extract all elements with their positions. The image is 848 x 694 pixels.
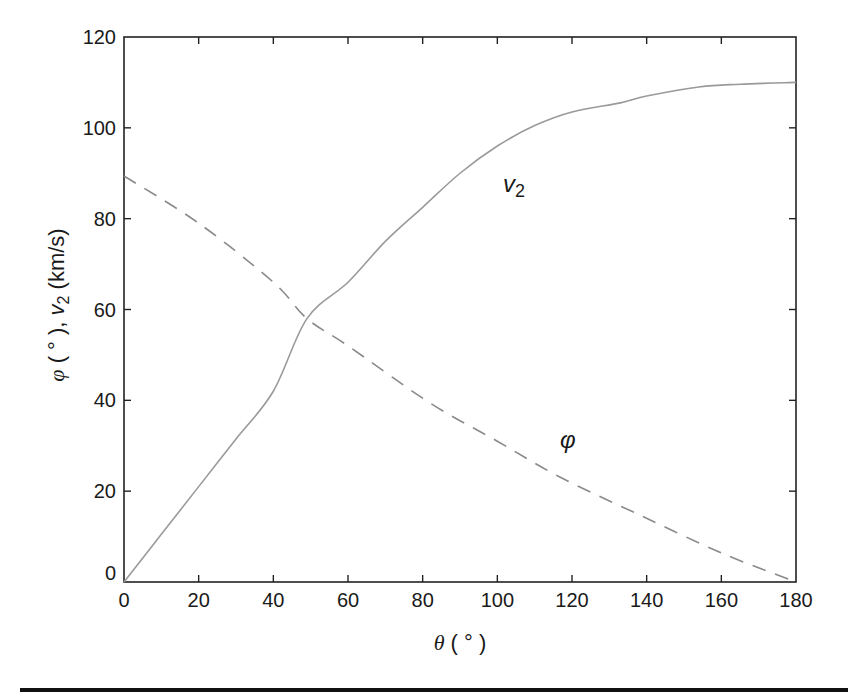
y-tick-label: 120 — [83, 26, 116, 48]
annotation-v2: v2 — [503, 170, 525, 201]
series-phi-line — [124, 176, 796, 582]
bottom-rule-divider — [20, 688, 848, 692]
y-axis-title: φ ( ° ), v2 (km/s) — [44, 228, 72, 381]
series-group — [124, 82, 796, 582]
series-v2-line — [124, 82, 796, 582]
x-tick-label: 80 — [412, 589, 434, 611]
x-tick-label: 20 — [188, 589, 210, 611]
x-tick-label: 160 — [705, 589, 738, 611]
y-tick-label: 100 — [83, 117, 116, 139]
plot-area — [124, 37, 796, 582]
y-tick-label: 60 — [94, 299, 116, 321]
y-tick-label: 0 — [105, 562, 116, 584]
plot-frame — [124, 37, 796, 582]
x-tick-label: 180 — [779, 589, 812, 611]
y-axis-ticks: 020406080100120 — [83, 26, 796, 584]
y-tick-label: 80 — [94, 208, 116, 230]
annotation-phi: φ — [560, 426, 576, 453]
chart: 020406080100120140160180 020406080100120… — [0, 0, 848, 694]
x-tick-label: 40 — [262, 589, 284, 611]
x-axis-ticks: 020406080100120140160180 — [118, 37, 812, 611]
x-tick-label: 60 — [337, 589, 359, 611]
x-tick-label: 0 — [118, 589, 129, 611]
x-tick-label: 140 — [630, 589, 663, 611]
x-tick-label: 120 — [555, 589, 588, 611]
x-axis-title: θ ( ° ) — [434, 630, 487, 655]
x-tick-label: 100 — [481, 589, 514, 611]
y-tick-label: 40 — [94, 389, 116, 411]
y-tick-label: 20 — [94, 480, 116, 502]
